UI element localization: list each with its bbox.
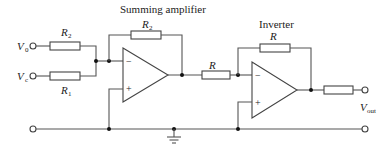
inverter-title: Inverter bbox=[259, 18, 294, 30]
r2-input-resistor bbox=[50, 42, 80, 50]
svg-text:0: 0 bbox=[25, 46, 29, 54]
wire bbox=[161, 35, 182, 75]
wire bbox=[109, 89, 123, 129]
r2-input-label: R 2 bbox=[60, 26, 72, 40]
output-resistor bbox=[324, 86, 353, 94]
vout-terminal[interactable] bbox=[362, 87, 368, 93]
svg-text:out: out bbox=[367, 107, 376, 115]
minus-input-2: − bbox=[255, 70, 261, 81]
junction-dot bbox=[94, 59, 98, 63]
plus-input-2: + bbox=[255, 97, 261, 108]
r-feedback-label: R bbox=[269, 30, 277, 42]
vout-label: V out bbox=[360, 101, 376, 115]
v0-input-terminal[interactable] bbox=[30, 43, 36, 49]
svg-text:c: c bbox=[25, 76, 28, 84]
wire bbox=[290, 48, 311, 90]
svg-text:V: V bbox=[17, 40, 25, 52]
r-series-resistor bbox=[202, 71, 230, 79]
r-feedback-resistor bbox=[260, 44, 290, 52]
plus-input-1: + bbox=[126, 83, 132, 94]
r-series-label: R bbox=[208, 59, 216, 71]
ground-right-terminal[interactable] bbox=[362, 126, 368, 132]
vc-input-terminal[interactable] bbox=[30, 73, 36, 79]
svg-text:1: 1 bbox=[68, 90, 72, 98]
v0-input-label: V 0 bbox=[17, 40, 29, 54]
r1-input-label: R 1 bbox=[60, 84, 72, 98]
svg-text:R: R bbox=[60, 84, 68, 96]
r2-feedback-label: R 2 bbox=[141, 18, 153, 32]
ground-icon bbox=[167, 129, 181, 143]
junction-dot bbox=[180, 73, 184, 77]
junction-dot bbox=[236, 127, 240, 131]
svg-text:2: 2 bbox=[68, 32, 72, 40]
circuit-diagram: Summing amplifier Inverter V 0 V c R 2 R… bbox=[0, 0, 389, 152]
wire bbox=[80, 46, 96, 76]
junction-dot bbox=[107, 127, 111, 131]
svg-text:R: R bbox=[60, 26, 68, 38]
vc-input-label: V c bbox=[17, 70, 28, 84]
wire bbox=[238, 102, 252, 129]
svg-text:R: R bbox=[141, 18, 149, 30]
ground-left-terminal[interactable] bbox=[30, 126, 36, 132]
svg-text:V: V bbox=[17, 70, 25, 82]
junction-dot bbox=[309, 88, 313, 92]
r2-feedback-resistor bbox=[131, 31, 161, 39]
minus-input-1: − bbox=[126, 56, 132, 67]
r1-input-resistor bbox=[50, 72, 80, 80]
summing-amplifier-title: Summing amplifier bbox=[120, 3, 206, 15]
